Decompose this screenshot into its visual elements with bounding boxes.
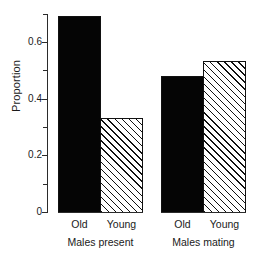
- y-tick-label-0.6: 0.6: [16, 37, 42, 47]
- x-tick-label-males-mating-young: Young: [201, 218, 248, 230]
- x-axis-line-group-1: [58, 212, 143, 213]
- x-tick-label-males-mating-old: Old: [161, 218, 204, 230]
- group-label-males-mating: Males mating: [153, 236, 254, 248]
- y-tick-major-0: [42, 212, 48, 213]
- x-axis-line-group-2: [161, 212, 246, 213]
- group-label-males-present: Males present: [50, 236, 151, 248]
- y-tick-label-0.2: 0.2: [16, 150, 42, 160]
- y-tick-minor-0.3: [43, 127, 48, 128]
- y-tick-major-0.6: [42, 42, 48, 43]
- y-tick-major-0.2: [42, 155, 48, 156]
- y-tick-label-0: 0: [16, 207, 42, 217]
- bar-males-mating-old: [161, 76, 204, 213]
- bar-males-present-young: [100, 118, 143, 213]
- x-tick-label-males-present-young: Young: [98, 218, 145, 230]
- y-tick-minor-0.1: [43, 184, 48, 185]
- y-tick-minor-0.7: [43, 14, 48, 15]
- y-tick-label-0.4: 0.4: [16, 94, 42, 104]
- x-tick-label-males-present-old: Old: [58, 218, 101, 230]
- y-tick-minor-0.5: [43, 70, 48, 71]
- y-axis-tick-labels: 0 0.2 0.4 0.6: [16, 0, 42, 263]
- y-tick-major-0.4: [42, 99, 48, 100]
- bar-males-present-old: [58, 16, 101, 213]
- bar-chart: Proportion 0 0.2 0.4 0.6 Old Young Old Y…: [0, 0, 257, 263]
- bar-males-mating-young: [203, 61, 246, 213]
